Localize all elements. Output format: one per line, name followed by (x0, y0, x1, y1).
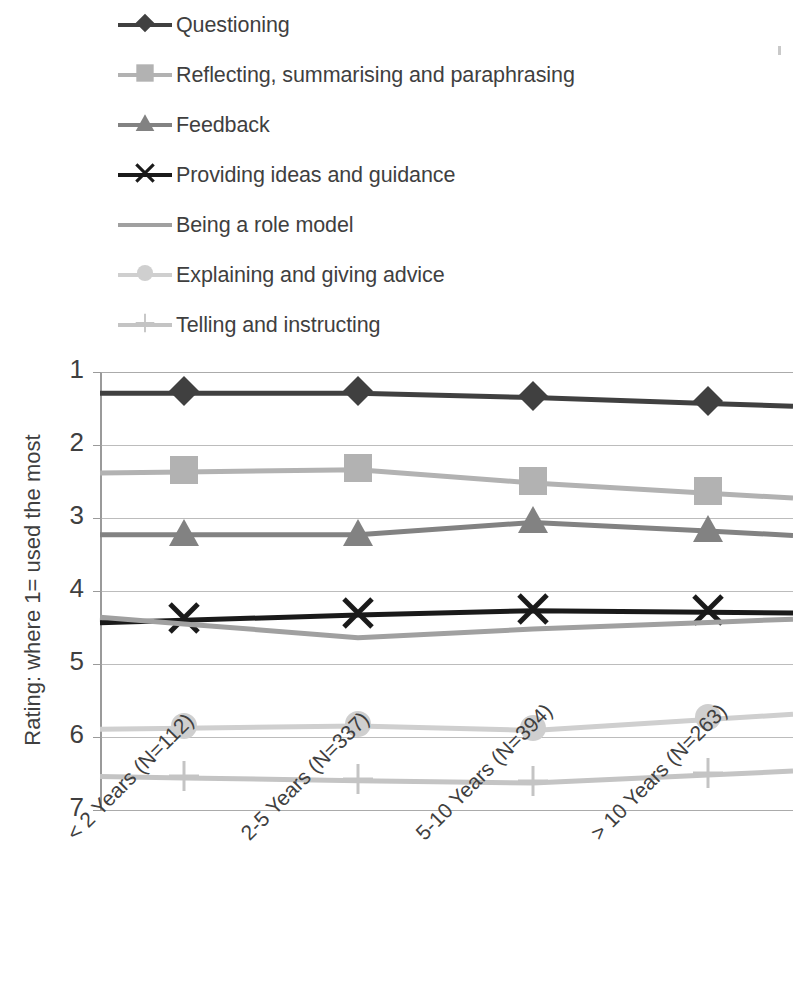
legend-item-3[interactable]: Feedback (118, 100, 778, 150)
plus-marker (341, 762, 375, 800)
legend-item-7[interactable]: Telling and instructing (118, 300, 778, 350)
legend-item-6[interactable]: Explaining and giving advice (118, 250, 778, 300)
y-tick-label: 5 (40, 648, 84, 674)
legend-circle-marker (134, 262, 155, 287)
legend-item-label: Questioning (176, 13, 290, 38)
legend-cross-marker (134, 162, 155, 187)
triangle-marker-legend (118, 114, 172, 136)
y-tick-label: 6 (40, 721, 84, 747)
legend-square-marker (134, 62, 155, 87)
y-tick-label: 3 (40, 502, 84, 528)
legend-plus-marker (134, 312, 155, 337)
legend-item-1[interactable]: Questioning (118, 0, 778, 50)
chart-legend: QuestioningReflecting, summarising and p… (118, 0, 778, 350)
legend-item-5[interactable]: Being a role model (118, 200, 778, 250)
circle-marker-legend (118, 264, 172, 286)
plus-marker (691, 756, 725, 794)
plus-marker (167, 759, 201, 797)
legend-item-2[interactable]: Reflecting, summarising and paraphrasing (118, 50, 778, 100)
y-tick-label: 4 (40, 575, 84, 601)
legend-item-label: Explaining and giving advice (176, 263, 445, 288)
legend-line (118, 223, 172, 227)
legend-item-label: Providing ideas and guidance (176, 163, 455, 188)
plot-wrapper: Rating: where 1= used the most 1234567 <… (0, 355, 793, 1007)
legend-item-label: Being a role model (176, 213, 353, 238)
plus-marker (516, 764, 550, 802)
legend-item-label: Feedback (176, 113, 270, 138)
chart-figure: QuestioningReflecting, summarising and p… (0, 0, 793, 1007)
cross-marker-legend (118, 164, 172, 186)
legend-item-4[interactable]: Providing ideas and guidance (118, 150, 778, 200)
scan-speck (778, 46, 781, 55)
diamond-marker-legend (118, 14, 172, 36)
y-tick-label: 1 (40, 356, 84, 382)
legend-triangle-marker (134, 112, 155, 137)
square-marker-legend (118, 64, 172, 86)
line-swatch-legend (118, 214, 172, 236)
plus-marker-legend (118, 314, 172, 336)
legend-item-label: Reflecting, summarising and paraphrasing (176, 63, 575, 88)
series-polyline (100, 771, 793, 783)
x-axis-category-labels: < 2 Years (N=112)2-5 Years (N=337)5-10 Y… (0, 810, 793, 1007)
y-tick-label: 2 (40, 429, 84, 455)
y-axis-tick-labels: 1234567 (24, 355, 84, 810)
legend-diamond-marker (134, 12, 155, 37)
legend-item-label: Telling and instructing (176, 313, 380, 338)
